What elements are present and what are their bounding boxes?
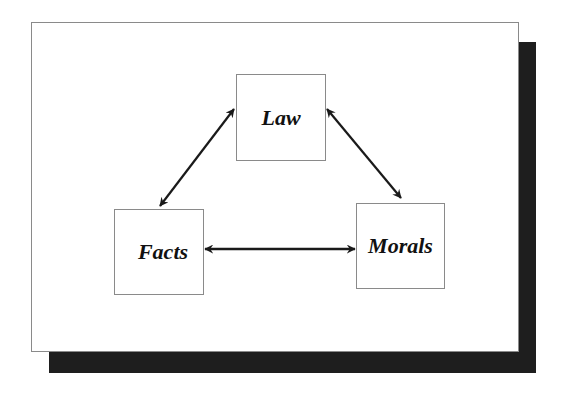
arrow-facts-law <box>160 109 234 206</box>
arrows-layer <box>0 0 567 402</box>
arrow-law-morals <box>327 109 401 198</box>
